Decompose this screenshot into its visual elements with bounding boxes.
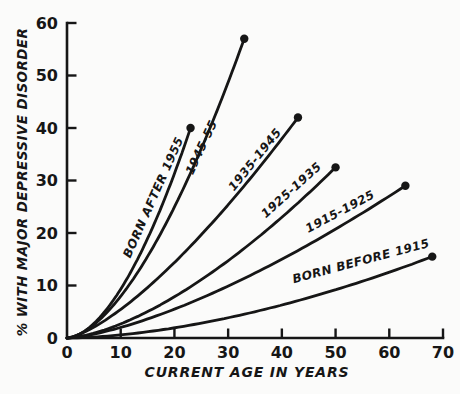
curve-endpoint-dot-1915-1925: [401, 182, 409, 190]
chart-canvas: 0102030405060010203040506070BORN AFTER 1…: [0, 0, 460, 394]
y-tick-label-40: 40: [36, 119, 58, 138]
x-tick-label-30: 30: [217, 343, 239, 362]
curve-endpoint-dot-1925-1935: [331, 163, 339, 171]
y-tick-label-10: 10: [36, 276, 58, 295]
curve-endpoint-dot-1935-1945: [294, 113, 302, 121]
x-tick-label-10: 10: [110, 343, 132, 362]
curve-endpoint-dot-born-after-1955: [186, 124, 194, 132]
x-tick-label-70: 70: [432, 343, 454, 362]
curve-label-born-after-1955: BORN AFTER 1955: [120, 135, 186, 260]
x-axis-title: CURRENT AGE IN YEARS: [145, 364, 350, 380]
curve-endpoint-dot-1945-55: [240, 35, 248, 43]
x-tick-label-50: 50: [324, 343, 346, 362]
y-tick-label-20: 20: [36, 224, 58, 243]
x-tick-label-0: 0: [61, 343, 72, 362]
x-tick-label-20: 20: [163, 343, 185, 362]
y-tick-label-0: 0: [47, 329, 58, 348]
curve-endpoint-dot-born-before-1915: [428, 252, 436, 260]
curve-label-1925-1935: 1925-1935: [258, 159, 324, 220]
x-tick-label-40: 40: [271, 343, 293, 362]
y-tick-label-60: 60: [36, 14, 58, 33]
curve-label-1935-1945: 1935-1945: [225, 125, 284, 193]
depression-cohort-figure: 0102030405060010203040506070BORN AFTER 1…: [0, 0, 460, 394]
y-axis-title: % WITH MAJOR DEPRESSIVE DISORDER: [14, 28, 30, 337]
y-tick-label-30: 30: [36, 171, 58, 190]
y-tick-label-50: 50: [36, 66, 58, 85]
x-tick-label-60: 60: [378, 343, 400, 362]
